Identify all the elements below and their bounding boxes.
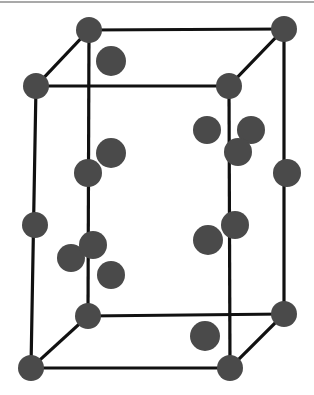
atom-interior-left-lower-b	[97, 261, 125, 289]
atom-edge-front-left-mid	[22, 212, 48, 238]
atom-corner-front-bottom-left	[18, 355, 44, 381]
atom-interior-left-mid-upper	[96, 138, 126, 168]
atom-corner-front-top-left	[23, 73, 49, 99]
atom-edge-back-left-upper	[74, 159, 102, 187]
atom-corner-back-bottom-left	[75, 303, 101, 329]
atom-corner-back-top-left	[76, 17, 102, 43]
edge-back_bottom_left-to-back_bottom_right	[88, 314, 284, 316]
atom-edge-back-left-lower	[79, 231, 107, 259]
atom-corner-back-bottom-right	[271, 301, 297, 327]
atoms	[18, 16, 301, 381]
unit-cell-edges	[31, 29, 284, 368]
atom-interior-upper-left	[96, 46, 126, 76]
atom-edge-front-right-upper	[224, 138, 252, 166]
edge-back_top_left-to-back_top_right	[89, 29, 284, 30]
atom-interior-right-lower	[193, 225, 223, 255]
crystal-unit-cell-diagram	[0, 0, 314, 395]
atom-corner-back-top-right	[271, 16, 297, 42]
atom-interior-right-upper-a	[193, 116, 221, 144]
atom-interior-bottom-right	[190, 321, 220, 351]
atom-corner-front-top-right	[216, 73, 242, 99]
atom-corner-front-bottom-right	[217, 355, 243, 381]
atom-edge-front-right-lower	[221, 211, 249, 239]
atom-edge-back-right-mid	[273, 159, 301, 187]
